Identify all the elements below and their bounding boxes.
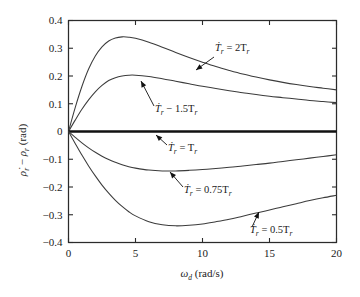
y-tick-label: 0.4 [49, 14, 63, 26]
x-tick-label: 20 [331, 247, 343, 259]
ann-1p5Tr-eq: − 1.5T [164, 103, 195, 114]
ann-0p75Tr-eq: = 0.75T [193, 184, 230, 195]
x-tick-label: 5 [133, 247, 139, 259]
ann-2Tr-eq: = 2T [224, 42, 247, 53]
y-tick-label: 0.2 [49, 70, 63, 82]
x-tick-label: 10 [197, 247, 209, 259]
ann-Tr-eq: = T [177, 142, 195, 153]
x-tick-label: 15 [264, 247, 276, 259]
y-tick-label: −0.3 [43, 209, 63, 221]
ann-0p5Tr-eq: = 0.5T [259, 224, 290, 235]
ann-0p75Tr-eq-sub-r: r [229, 189, 232, 198]
x-tick-label: 0 [66, 247, 72, 259]
y-tick-label: −0.1 [43, 153, 63, 165]
y-tick-label: 0.3 [49, 42, 63, 54]
line-chart: 0.40.30.20.10−0.1−0.2−0.3−0.4 05101520 Ṫ… [0, 0, 360, 297]
ann-1p5Tr-eq-sub-r: r [194, 108, 197, 117]
y-tick-label: 0.1 [49, 98, 63, 110]
ann-Tr-eq-sub-r: r [194, 147, 197, 156]
ann-0p5Tr-eq-sub-r: r [289, 229, 292, 238]
y-tick-label: −0.2 [43, 181, 63, 193]
ann-2Tr-eq-sub-r: r [247, 47, 250, 56]
y-tick-label: 0 [57, 125, 63, 137]
y-tick-label: −0.4 [43, 236, 63, 248]
chart-figure: 0.40.30.20.10−0.1−0.2−0.3−0.4 05101520 Ṫ… [0, 0, 360, 297]
